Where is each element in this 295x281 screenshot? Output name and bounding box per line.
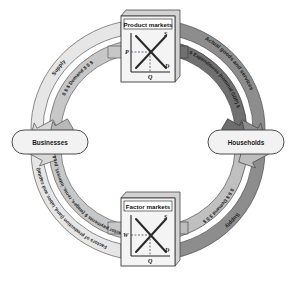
factor-demand-label: D: [164, 247, 170, 253]
businesses-node[interactable]: Businesses: [12, 130, 88, 154]
factor-wage-axis-label: W: [123, 232, 129, 238]
households-label: Households: [228, 139, 265, 146]
product-quantity-axis-label: Q: [148, 74, 153, 80]
product-markets-title: Product markets: [124, 21, 173, 28]
factor-markets-box[interactable]: Factor markets W Q S D: [121, 192, 180, 266]
flow-svg: Supply $ $ $ Demand $ $ $ Actual goods a…: [0, 0, 295, 281]
businesses-label: Businesses: [32, 139, 68, 146]
product-markets-box[interactable]: Product markets P Q S D: [121, 10, 180, 82]
circular-flow-diagram: Supply $ $ $ Demand $ $ $ Actual goods a…: [0, 0, 295, 281]
product-price-axis-label: P: [125, 49, 129, 55]
households-node[interactable]: Households: [208, 130, 284, 154]
factor-markets-title: Factor markets: [126, 203, 171, 210]
product-demand-label: D: [164, 63, 170, 69]
factor-quantity-axis-label: Q: [148, 258, 153, 264]
